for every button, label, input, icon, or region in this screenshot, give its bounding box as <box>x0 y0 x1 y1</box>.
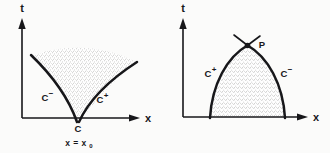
label-x-equals-x0-subscript: 0 <box>89 143 93 149</box>
label-c-minus-left: C − <box>42 89 54 103</box>
x-axis-label-left: x <box>145 112 152 124</box>
label-c-minus-right-superscript: − <box>288 65 293 74</box>
t-axis-left <box>18 18 25 118</box>
stippled-dome-region <box>210 46 285 117</box>
label-c-plus-left: C + <box>97 91 109 105</box>
intersection-point-marker <box>245 43 251 49</box>
panel-left-diverging-characteristics: t x C − C + C x = x 0 <box>0 0 165 153</box>
label-point-c-left: C <box>75 123 82 134</box>
label-x-equals-x0-base: x = x <box>65 138 87 148</box>
label-c-plus-right: C + <box>205 65 217 79</box>
label-c-plus-right-superscript: + <box>212 65 217 74</box>
label-c-minus-right-base: C <box>281 68 288 79</box>
x-axis-label-right: x <box>313 111 320 123</box>
label-c-plus-left-base: C <box>97 94 104 105</box>
characteristics-figure: t x C − C + C x = x 0 <box>0 0 330 153</box>
t-axis-label-right: t <box>181 2 185 14</box>
panel-right-converging-characteristics: P t x C + C − <box>165 0 330 153</box>
label-x-equals-x0: x = x 0 <box>65 138 93 149</box>
label-point-p: P <box>259 39 266 50</box>
label-c-plus-right-base: C <box>205 68 212 79</box>
label-c-minus-left-superscript: − <box>49 89 54 98</box>
t-axis-right <box>179 18 186 117</box>
label-c-plus-left-superscript: + <box>104 91 109 100</box>
label-c-minus-left-base: C <box>42 92 49 103</box>
t-axis-label-left: t <box>20 2 24 14</box>
label-c-minus-right: C − <box>281 65 293 79</box>
